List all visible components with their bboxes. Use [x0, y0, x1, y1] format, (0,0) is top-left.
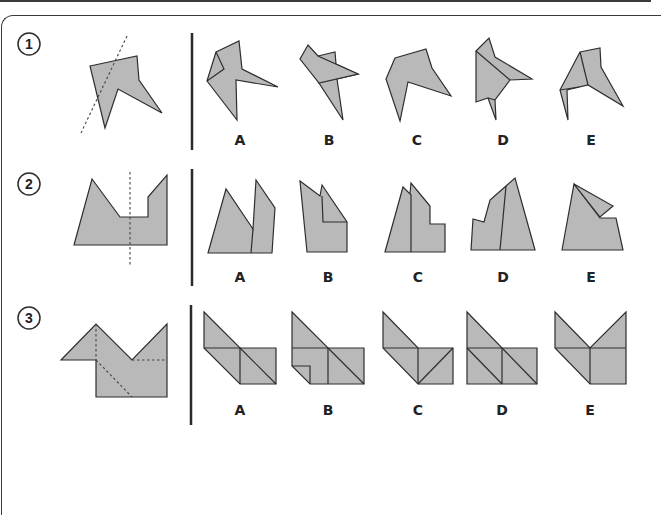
option-a[interactable]: A: [204, 312, 276, 418]
option-label: C: [413, 402, 423, 418]
option-label: B: [323, 269, 334, 285]
option-label: B: [323, 402, 334, 418]
row-number: 2: [25, 176, 33, 192]
option-e[interactable]: E: [555, 312, 626, 418]
option-label: D: [497, 132, 509, 148]
option-d[interactable]: D: [471, 178, 535, 285]
row-1: 1 A B C D E: [18, 33, 623, 150]
row-number-badge: 2: [18, 173, 40, 195]
option-e[interactable]: E: [560, 48, 623, 148]
row-number: 3: [25, 310, 33, 326]
option-label: D: [496, 402, 508, 418]
option-shape-flap: [300, 45, 358, 83]
option-c[interactable]: C: [383, 312, 453, 418]
option-shape: [208, 180, 275, 253]
option-shape: [476, 38, 532, 120]
option-shape: [300, 181, 347, 252]
option-label: B: [324, 132, 335, 148]
option-c[interactable]: C: [385, 183, 445, 285]
option-label: A: [235, 402, 246, 418]
source-shape: [61, 324, 167, 397]
option-d[interactable]: D: [476, 38, 532, 148]
row-3: 3 A B C: [18, 305, 626, 425]
source-shape: [74, 175, 167, 245]
option-label: C: [413, 269, 423, 285]
option-b[interactable]: B: [300, 45, 358, 148]
option-shape: [207, 41, 278, 120]
option-label: E: [586, 132, 596, 148]
option-c[interactable]: C: [386, 49, 451, 148]
source-figure: [61, 324, 167, 397]
option-b[interactable]: B: [292, 312, 364, 418]
option-a[interactable]: A: [207, 41, 278, 148]
source-figure: [74, 172, 167, 267]
option-label: D: [497, 269, 509, 285]
option-label: E: [586, 269, 596, 285]
option-label: A: [235, 132, 246, 148]
source-figure: [81, 36, 162, 133]
option-b[interactable]: B: [300, 181, 347, 285]
row-number: 1: [25, 36, 33, 52]
option-a[interactable]: A: [208, 180, 275, 285]
option-shape: [386, 49, 451, 121]
option-label: E: [585, 402, 595, 418]
row-2: 2 A B C D E: [18, 169, 623, 286]
option-d[interactable]: D: [467, 312, 537, 418]
row-number-badge: 1: [18, 33, 40, 55]
option-label: C: [412, 132, 422, 148]
option-shape: [385, 183, 445, 252]
option-label: A: [235, 269, 246, 285]
row-number-badge: 3: [18, 307, 40, 329]
option-e[interactable]: E: [562, 184, 623, 285]
option-shape: [560, 48, 623, 120]
